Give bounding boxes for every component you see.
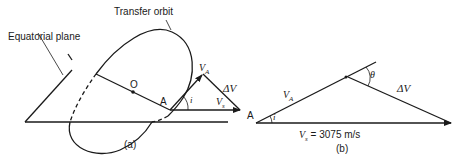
- transfer-orbit-label: Transfer orbit: [114, 6, 173, 17]
- va-label-a: VA: [199, 62, 210, 76]
- caption-a: (a): [124, 139, 136, 150]
- transfer-orbit-solid-lower: [69, 122, 152, 154]
- inclination-label-a: i: [190, 95, 193, 105]
- equatorial-plane-edge: [25, 70, 72, 122]
- transfer-orbit-dashed-right: [152, 116, 168, 122]
- va-label-b: VA: [283, 89, 294, 103]
- vs-label-b: Vs = 3075 m/s: [299, 129, 360, 143]
- transfer-orbit-dashed-left: [70, 74, 96, 122]
- transfer-orbit-solid-upper: [96, 30, 192, 116]
- transfer-orbit-pointer: [166, 20, 171, 30]
- equatorial-plane-tick: [68, 54, 72, 60]
- delta-v-label-b: ΔV: [396, 82, 411, 94]
- vs-label-a: Vs: [216, 96, 225, 110]
- point-label-b: A: [247, 110, 254, 121]
- center-label-o: O: [130, 79, 138, 90]
- panel-a: Transfer orbit Equatorial plane O A VA Δ…: [8, 6, 240, 154]
- va-tip-b: [345, 76, 348, 79]
- point-label-a: A: [160, 96, 167, 107]
- caption-b: (b): [336, 143, 348, 154]
- inclination-arc-b: [270, 116, 272, 123]
- figure-svg: Transfer orbit Equatorial plane O A VA Δ…: [0, 0, 458, 159]
- panel-b: A VA i θ ΔV Vs = 3075 m/s (b): [247, 62, 451, 154]
- inclination-arc-a: [183, 96, 188, 110]
- va-vector-a: [170, 75, 202, 110]
- center-point-o: [131, 90, 135, 94]
- theta-label-b: θ: [370, 69, 375, 80]
- equatorial-plane-label: Equatorial plane: [8, 31, 81, 42]
- delta-v-label-a: ΔV: [222, 82, 237, 94]
- orbit-transfer-figure: Transfer orbit Equatorial plane O A VA Δ…: [0, 0, 458, 159]
